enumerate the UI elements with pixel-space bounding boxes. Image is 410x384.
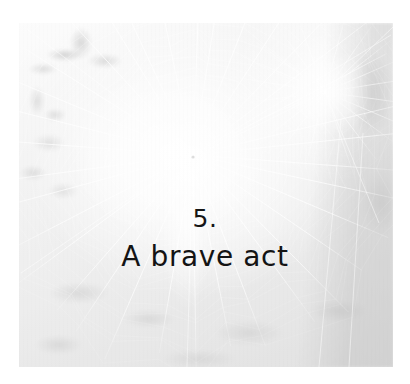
secondary-web-group (229, 23, 394, 178)
chapter-photograph (19, 23, 393, 367)
secondary-web-spiral (229, 23, 394, 178)
book-chapter-opener-page: 5. A brave act (0, 0, 410, 384)
spider-web-graphic (19, 23, 393, 367)
